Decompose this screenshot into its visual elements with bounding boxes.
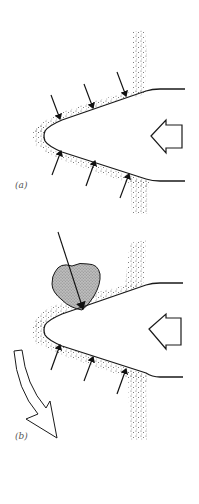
- pressure-arrow-upper-3: [117, 72, 126, 96]
- push-arrow-left-icon: [151, 120, 182, 153]
- deflection-arrow-icon: [14, 350, 57, 438]
- stipple-wall-lower: [128, 370, 147, 440]
- panel-label-a: (a): [15, 180, 27, 190]
- panel-a: [32, 30, 185, 214]
- panel-label-b: (b): [15, 431, 28, 441]
- push-arrow-left-icon: [149, 314, 181, 349]
- panel-b: [14, 232, 183, 440]
- stipple-wall-upper: [132, 30, 147, 97]
- wedge-pressure-diagram: [0, 0, 199, 504]
- stipple-wall-lower: [130, 177, 148, 214]
